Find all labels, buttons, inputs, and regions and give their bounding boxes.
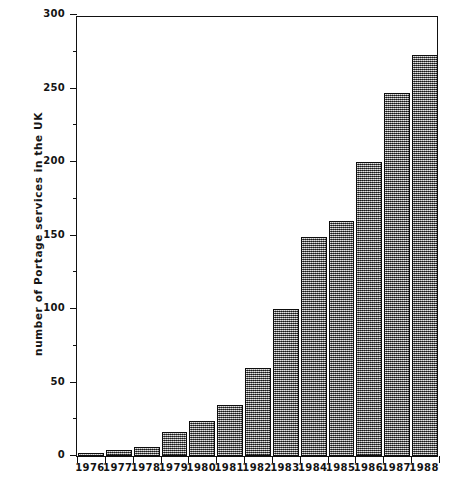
bar-1981 xyxy=(217,17,243,456)
bars-layer xyxy=(77,17,437,456)
x-axis-label-1987: 1987 xyxy=(382,462,411,473)
y-tick-label-300: 300 xyxy=(43,8,65,19)
y-axis-title: number of Portage services in the UK xyxy=(32,104,44,364)
y-tick-major-0: 0 xyxy=(70,455,77,456)
bar-chart-figure: number of Portage services in the UK 050… xyxy=(0,0,461,485)
bar-rect xyxy=(189,421,215,456)
x-axis-label-1988: 1988 xyxy=(409,462,438,473)
x-axis-label-1982: 1982 xyxy=(242,462,271,473)
x-axis-label-1976: 1976 xyxy=(75,462,104,473)
y-tick-label-50: 50 xyxy=(50,376,65,387)
y-tick-minor-225 xyxy=(73,124,77,125)
bar-rect xyxy=(384,93,410,456)
x-axis-label-1986: 1986 xyxy=(354,462,383,473)
y-tick-label-0: 0 xyxy=(58,449,65,460)
y-tick-label-100: 100 xyxy=(43,302,65,313)
bar-rect xyxy=(273,309,299,456)
y-tick-minor-125 xyxy=(73,271,77,272)
y-tick-minor-275 xyxy=(73,51,77,52)
bar-1977 xyxy=(106,17,132,456)
y-tick-minor-175 xyxy=(73,198,77,199)
bar-1986 xyxy=(356,17,382,456)
x-axis-label-1978: 1978 xyxy=(131,462,160,473)
y-tick-minor-75 xyxy=(73,345,77,346)
bar-1984 xyxy=(301,17,327,456)
x-axis-label-1977: 1977 xyxy=(103,462,132,473)
bar-rect xyxy=(329,221,355,456)
bar-rect xyxy=(245,368,271,456)
x-axis-label-1984: 1984 xyxy=(298,462,327,473)
bar-rect xyxy=(412,55,438,456)
x-axis-label-1985: 1985 xyxy=(326,462,355,473)
y-tick-major-300: 300 xyxy=(70,14,77,15)
bar-1979 xyxy=(162,17,188,456)
x-tick-13 xyxy=(439,456,440,463)
x-axis-label-1983: 1983 xyxy=(270,462,299,473)
y-tick-minor-25 xyxy=(73,418,77,419)
y-tick-major-100: 100 xyxy=(70,308,77,309)
bar-rect xyxy=(78,453,104,456)
x-axis-label-1981: 1981 xyxy=(214,462,243,473)
bar-rect xyxy=(162,432,188,456)
y-tick-major-250: 250 xyxy=(70,88,77,89)
bar-1987 xyxy=(384,17,410,456)
bar-rect xyxy=(356,162,382,456)
y-tick-label-200: 200 xyxy=(43,155,65,166)
y-tick-major-50: 50 xyxy=(70,382,77,383)
bar-1983 xyxy=(273,17,299,456)
bar-rect xyxy=(134,447,160,456)
y-tick-label-150: 150 xyxy=(43,229,65,240)
bar-1985 xyxy=(329,17,355,456)
bar-rect xyxy=(217,405,243,456)
bar-1988 xyxy=(412,17,438,456)
y-tick-label-250: 250 xyxy=(43,82,65,93)
bar-1976 xyxy=(78,17,104,456)
y-tick-major-200: 200 xyxy=(70,161,77,162)
plot-area: 050100150200250300 xyxy=(76,16,438,457)
bar-1982 xyxy=(245,17,271,456)
x-axis-label-1980: 1980 xyxy=(187,462,216,473)
x-axis-labels: 1976197719781979198019811982198319841985… xyxy=(76,462,438,476)
x-axis-label-1979: 1979 xyxy=(159,462,188,473)
bar-1980 xyxy=(189,17,215,456)
bar-1978 xyxy=(134,17,160,456)
bar-rect xyxy=(106,450,132,456)
bar-rect xyxy=(301,237,327,456)
y-tick-major-150: 150 xyxy=(70,235,77,236)
